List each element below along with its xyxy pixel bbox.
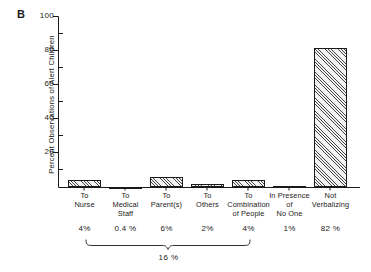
y-tick-40: 40 [32, 114, 54, 124]
value-label-not-verbalizing: 82 % [300, 224, 361, 233]
bracket-total-label: 16 % [138, 253, 199, 262]
bar-chart: Percent Observations of Alert Children 1… [0, 0, 371, 272]
bar-to-parents[interactable] [150, 177, 183, 187]
y-tick-60: 60 [32, 80, 54, 90]
y-tick-20: 20 [32, 148, 54, 158]
bar-to-medical-staff[interactable] [109, 187, 142, 189]
bar-in-presence-of-no-one[interactable] [273, 186, 306, 188]
bar-to-others[interactable] [191, 184, 224, 187]
bar-to-nurse[interactable] [68, 180, 101, 187]
bar-to-combination-of-people[interactable] [232, 180, 265, 187]
bar-not-verbalizing[interactable] [314, 48, 347, 187]
category-label-not-verbalizing: Not Verbalizing [299, 191, 362, 209]
y-tick-80: 80 [32, 46, 54, 56]
y-axis-label: Percent Observations of Alert Children [47, 10, 56, 200]
y-tick-100: 100 [32, 12, 54, 22]
figure-panel-b: B [0, 0, 371, 272]
